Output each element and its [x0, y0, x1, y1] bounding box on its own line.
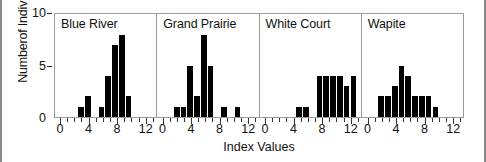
x-tick-mark [67, 118, 68, 122]
x-tick-mark [301, 118, 302, 122]
x-tick-label: 4 [85, 123, 92, 136]
bar [208, 66, 214, 118]
x-tick-label: 0 [57, 123, 64, 136]
x-tick-mark [170, 118, 171, 122]
bar [112, 45, 118, 117]
x-tick-mark [124, 118, 125, 122]
bar [351, 76, 357, 117]
chart-panel: Grand Prairie [156, 13, 258, 118]
bar [344, 86, 350, 117]
x-tick-label: 0 [262, 123, 269, 136]
x-tick-mark [234, 118, 235, 122]
x-tick-label: 4 [290, 123, 297, 136]
x-tick-mark [255, 118, 256, 122]
x-tick-mark [389, 118, 390, 122]
x-axis: 04812 [259, 118, 362, 136]
x-axis: 04812 [54, 118, 157, 136]
x-axis: 04812 [362, 118, 465, 136]
chart-panel: White Court [259, 13, 361, 118]
x-tick-label: 4 [393, 123, 400, 136]
x-axis-title: Index Values [54, 140, 464, 154]
panels-container: Blue RiverGrand PrairieWhite CourtWapite [54, 13, 464, 118]
bar [317, 76, 323, 117]
bar [399, 66, 405, 118]
bar [330, 76, 336, 117]
x-tick-mark [417, 118, 418, 122]
x-axes-container: 04812048120481204812 [54, 118, 464, 136]
y-tick-label: 10 [32, 7, 46, 19]
x-tick-label: 12 [139, 123, 153, 136]
x-tick-mark [358, 118, 359, 122]
x-axis: 04812 [157, 118, 260, 136]
bar-group [163, 14, 254, 117]
bar [85, 96, 91, 117]
x-tick-label: 8 [216, 123, 223, 136]
x-tick-mark [410, 118, 411, 122]
x-tick-mark [382, 118, 383, 122]
bar [194, 96, 200, 117]
chart-panel: Wapite [361, 13, 464, 118]
chart-panel: Blue River [54, 13, 156, 118]
x-tick-mark [460, 118, 461, 122]
x-tick-mark [375, 118, 376, 122]
bar [405, 76, 411, 117]
bar [119, 35, 125, 117]
bar [105, 76, 111, 117]
chart-frame: Numberof Individuals 0510 Blue RiverGran… [0, 0, 486, 162]
y-tick-label: 0 [39, 112, 46, 124]
x-tick-label: 8 [421, 123, 428, 136]
x-tick-mark [81, 118, 82, 122]
x-tick-label: 0 [364, 123, 371, 136]
x-tick-label: 0 [159, 123, 166, 136]
bar [174, 107, 180, 117]
x-tick-mark [184, 118, 185, 122]
bar [126, 96, 132, 117]
bar [181, 107, 187, 117]
bar [419, 96, 425, 117]
bar [392, 86, 398, 117]
y-tick-mark [47, 13, 52, 14]
bar [221, 107, 227, 117]
x-tick-mark [177, 118, 178, 122]
x-tick-label: 12 [446, 123, 460, 136]
x-tick-mark [198, 118, 199, 122]
bar [78, 107, 84, 117]
bar [323, 76, 329, 117]
x-tick-mark [403, 118, 404, 122]
x-tick-mark [432, 118, 433, 122]
x-tick-mark [212, 118, 213, 122]
x-tick-mark [205, 118, 206, 122]
x-tick-mark [153, 118, 154, 122]
x-tick-mark [110, 118, 111, 122]
bar [433, 107, 439, 117]
x-tick-mark [329, 118, 330, 122]
x-tick-label: 12 [241, 123, 255, 136]
bar [99, 107, 105, 117]
x-tick-mark [103, 118, 104, 122]
x-tick-label: 8 [114, 123, 121, 136]
x-tick-mark [439, 118, 440, 122]
bar [303, 107, 309, 117]
bar [412, 96, 418, 117]
x-tick-mark [272, 118, 273, 122]
bar [187, 66, 193, 118]
bar-group [61, 14, 152, 117]
bar-group [368, 14, 459, 117]
y-tick-mark [47, 66, 52, 67]
bar [201, 35, 207, 117]
x-tick-mark [315, 118, 316, 122]
x-tick-mark [74, 118, 75, 122]
x-tick-mark [96, 118, 97, 122]
bar [426, 96, 432, 117]
bar [337, 76, 343, 117]
bar [378, 96, 384, 117]
bar [296, 107, 302, 117]
x-tick-mark [336, 118, 337, 122]
x-tick-label: 8 [319, 123, 326, 136]
bar [235, 107, 241, 117]
y-tick-label: 5 [39, 60, 46, 72]
x-tick-label: 4 [188, 123, 195, 136]
bar [385, 96, 391, 117]
x-tick-mark [131, 118, 132, 122]
x-tick-mark [279, 118, 280, 122]
